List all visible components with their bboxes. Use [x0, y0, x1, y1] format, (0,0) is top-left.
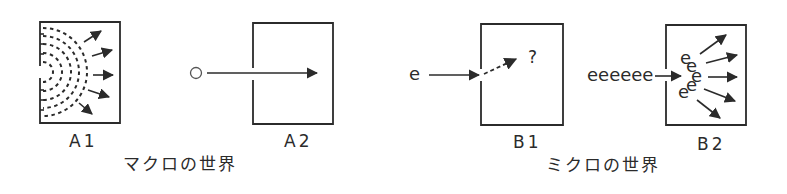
panel-label-a1: A1: [69, 131, 97, 151]
arrow-icon: [697, 35, 737, 118]
caption-macro-world: マクロの世界: [123, 154, 237, 174]
panel-a2: A2: [191, 23, 334, 151]
b2-box: [666, 25, 746, 125]
arrow-icon: [79, 31, 113, 114]
electron-symbol: e: [409, 63, 420, 84]
wavefront-arc-icon: [43, 28, 87, 116]
scattered-electrons: e e e e e: [678, 47, 702, 102]
panel-label-b1: B1: [513, 132, 541, 152]
panel-label-a2: A2: [284, 131, 312, 151]
macro-micro-diagram: A1 A2 マクロの世界 e ? B1 eeeeee e e e e e: [0, 0, 787, 194]
panel-label-b2: B2: [697, 134, 725, 154]
panel-b2: eeeeee e e e e e B2: [587, 25, 746, 154]
panel-b1: e ? B1: [409, 24, 563, 152]
dashed-arrow-icon: [484, 59, 516, 74]
svg-text:e: e: [678, 81, 689, 102]
caption-micro-world: ミクロの世界: [546, 155, 660, 175]
electron-stream: eeeeee: [587, 64, 653, 85]
b1-box: [481, 24, 563, 125]
circle-particle-icon: [191, 68, 202, 79]
question-mark: ?: [528, 47, 537, 67]
panel-a1: A1: [40, 22, 120, 151]
